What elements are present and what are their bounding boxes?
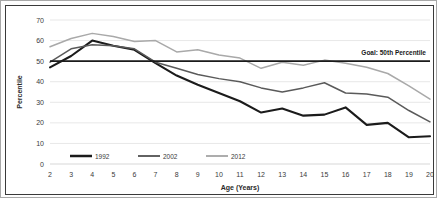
x-axis-tick-label: 13 [278,171,286,178]
x-axis-tick-labels: 234567891011121314151617181920 [48,171,434,178]
x-axis-tick-label: 11 [236,171,243,178]
y-axis-tick-label: 20 [36,119,44,126]
chart-inner-border: 010203040506070 234567891011121314151617… [5,5,434,195]
x-axis-title: Age (Years) [221,184,260,192]
y-axis-tick-label: 70 [36,17,44,24]
x-axis-tick-label: 6 [132,171,136,178]
x-axis-tick-label: 19 [405,171,413,178]
x-axis-tick-label: 10 [215,171,223,178]
legend-label-2002: 2002 [163,153,178,160]
series-line-2002 [50,45,430,122]
chart-outer-border: 010203040506070 234567891011121314151617… [0,0,437,198]
x-axis-tick-label: 8 [175,171,179,178]
y-axis-tick-label: 40 [36,78,44,85]
x-axis-tick-label: 4 [90,171,94,178]
legend: 199220022012 [70,153,246,160]
legend-label-1992: 1992 [95,153,110,160]
goal-annotation-group: Goal: 50th Percentile [50,49,430,61]
x-axis-tick-label: 16 [342,171,350,178]
x-axis-tick-label: 14 [299,171,307,178]
legend-label-2012: 2012 [231,153,246,160]
x-axis-tick-label: 5 [111,171,115,178]
x-axis-tick-label: 7 [154,171,158,178]
y-axis-tick-label: 0 [40,161,44,168]
y-axis-tick-label: 60 [36,37,44,44]
y-axis-tick-label: 50 [36,58,44,65]
x-axis-tick-label: 2 [48,171,52,178]
y-axis-title: Percentile [16,75,23,109]
x-axis-tick-label: 9 [196,171,200,178]
y-axis-tick-label: 30 [36,99,44,106]
x-axis-tick-label: 12 [257,171,265,178]
x-axis-tick-label: 18 [384,171,392,178]
x-axis-tick-label: 15 [321,171,329,178]
y-axis-tick-labels: 010203040506070 [36,17,44,168]
y-axis-tick-label: 10 [36,140,44,147]
x-axis-tick-label: 17 [363,171,371,178]
line-chart: 010203040506070 234567891011121314151617… [6,6,435,196]
x-axis-tick-label: 3 [69,171,73,178]
goal-label: Goal: 50th Percentile [361,49,426,56]
gridline-group [50,20,430,164]
chart-plot-area: 010203040506070 234567891011121314151617… [6,6,435,196]
x-axis-tick-label: 20 [426,171,434,178]
